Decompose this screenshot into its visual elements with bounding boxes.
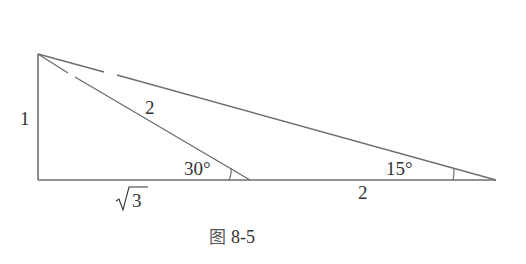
label-base-right: 2 [358, 182, 368, 203]
label-base-left-sqrt3: 3 [116, 187, 148, 211]
angle-arc-15 [453, 168, 454, 180]
triangle-diagram: 1 2 30° 15° 2 3 图 8-5 [0, 0, 526, 264]
label-base-left-radicand: 3 [132, 190, 142, 211]
outer-hypotenuse-segment-2 [117, 75, 496, 180]
label-vertical-side: 1 [20, 108, 30, 129]
outer-hypotenuse-segment-1 [38, 54, 104, 72]
label-inner-hypotenuse: 2 [145, 97, 155, 118]
inner-hypotenuse-segment-1 [38, 54, 68, 73]
caption-number: 8-5 [231, 227, 255, 247]
inner-hypotenuse-segment-2 [75, 77, 250, 180]
angle-arc-30 [229, 168, 231, 180]
caption-prefix: 图 [209, 227, 226, 247]
label-angle-30: 30° [184, 158, 211, 179]
label-angle-15: 15° [386, 158, 413, 179]
figure-caption: 图 8-5 [209, 227, 255, 247]
